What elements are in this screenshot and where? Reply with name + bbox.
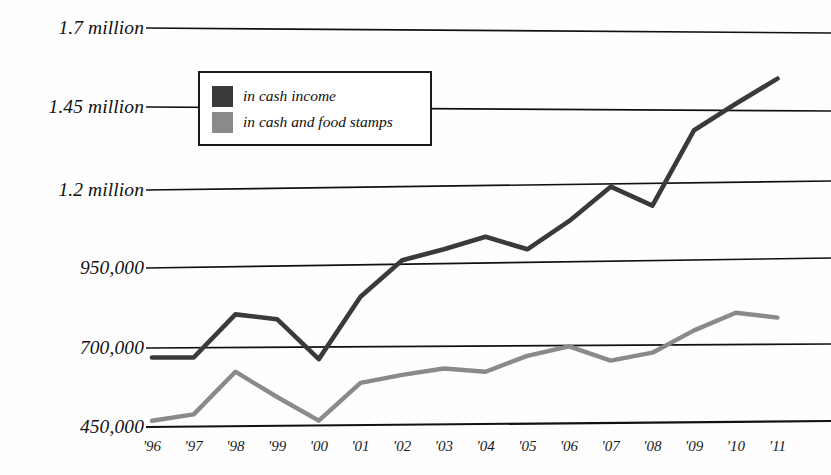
legend-label-cash-income: in cash income <box>243 88 336 104</box>
y-tick-label: 1.7 million <box>58 17 150 39</box>
gridline <box>146 28 831 33</box>
gridline <box>146 181 831 190</box>
y-tick-label: 700,000 <box>80 337 150 359</box>
legend-swatch-cash-income <box>212 86 233 107</box>
legend-item-cash-and-food-stamps: in cash and food stamps <box>212 112 420 133</box>
legend-item-cash-income: in cash income <box>212 86 420 107</box>
gridline <box>146 258 831 268</box>
gridline <box>146 344 831 348</box>
series-line-cash-and-food-stamps <box>152 313 778 421</box>
legend-swatch-cash-and-food-stamps <box>212 112 233 133</box>
y-tick-label: 950,000 <box>80 257 150 279</box>
gridline <box>146 421 831 427</box>
y-tick-label: 1.2 million <box>58 179 150 201</box>
chart-legend: in cash income in cash and food stamps <box>198 71 432 146</box>
chart-container: 1.7 million1.45 million1.2 million950,00… <box>0 0 831 475</box>
legend-label-cash-and-food-stamps: in cash and food stamps <box>243 114 393 130</box>
y-tick-label: 450,000 <box>80 416 150 438</box>
y-axis: 1.7 million1.45 million1.2 million950,00… <box>0 0 150 475</box>
y-tick-label: 1.45 million <box>49 96 150 118</box>
